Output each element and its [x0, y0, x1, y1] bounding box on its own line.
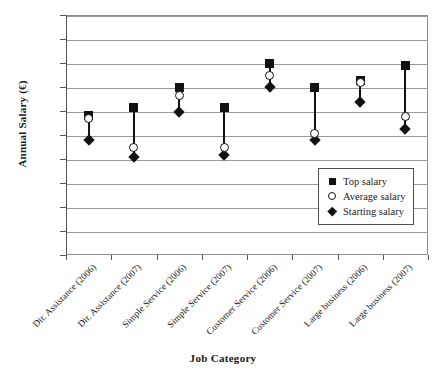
x-axis-tick-mark [383, 255, 384, 260]
average-salary-marker [84, 114, 93, 123]
legend-label: Average salary [343, 191, 405, 202]
top-salary-marker [129, 103, 138, 112]
y-axis-tick-mark [60, 15, 66, 16]
x-axis-tick-mark [247, 255, 248, 260]
average-salary-marker [175, 91, 184, 100]
average-salary-marker [356, 78, 365, 87]
legend-item-top-salary: Top salary [325, 174, 405, 188]
y-axis-tick-mark [60, 159, 66, 160]
gridline [67, 112, 427, 113]
average-salary-marker [265, 71, 274, 80]
y-axis-tick-mark [60, 207, 66, 208]
average-salary-marker [310, 129, 319, 138]
x-axis-category-label: Large business (2006) [284, 262, 369, 347]
top-salary-marker [265, 59, 274, 68]
gridline [67, 160, 427, 161]
top-salary-marker [310, 83, 319, 92]
filled-square-icon [325, 178, 339, 185]
gridline [67, 232, 427, 233]
x-axis-category-label: Customer Service (2007) [239, 262, 324, 347]
gridline [67, 88, 427, 89]
open-circle-icon [325, 192, 339, 200]
y-axis-tick-mark [60, 111, 66, 112]
salary-range-chart: Annual Salary (€) 05,00010,00015,00020,0… [0, 0, 446, 375]
x-axis-category-label: Simple Service (2006) [103, 262, 188, 347]
top-salary-marker [401, 61, 410, 70]
x-axis-title: Job Category [0, 352, 446, 364]
x-axis-tick-mark [111, 255, 112, 260]
x-axis-category-label: Customer Service (2006) [194, 262, 279, 347]
gridline [67, 136, 427, 137]
gridline [67, 16, 427, 17]
y-axis-tick-mark [60, 231, 66, 232]
y-axis-title: Annual Salary (€) [16, 44, 28, 204]
filled-diamond-icon [325, 208, 339, 215]
x-axis-tick-mark [157, 255, 158, 260]
y-axis-tick-mark [60, 183, 66, 184]
chart-legend: Top salary Average salary Starting salar… [318, 168, 414, 225]
gridline [67, 40, 427, 41]
x-axis-tick-mark [66, 255, 67, 260]
legend-item-average-salary: Average salary [325, 189, 405, 203]
x-axis-category-label: Dir. Assistance (2006) [13, 262, 98, 347]
x-axis-tick-mark [428, 255, 429, 260]
legend-item-starting-salary: Starting salary [325, 204, 405, 218]
x-axis-category-label: Dir. Assistance (2007) [58, 262, 143, 347]
gridline [67, 64, 427, 65]
y-axis-tick-mark [60, 63, 66, 64]
x-axis-tick-mark [202, 255, 203, 260]
y-axis-tick-mark [60, 87, 66, 88]
y-axis-tick-mark [60, 39, 66, 40]
legend-label: Top salary [343, 176, 387, 187]
x-axis-tick-mark [292, 255, 293, 260]
x-axis-tick-mark [338, 255, 339, 260]
x-axis-category-label: Large business (2007) [330, 262, 415, 347]
x-axis-category-label: Simple Service (2007) [149, 262, 234, 347]
average-salary-marker [129, 143, 138, 152]
legend-label: Starting salary [343, 206, 404, 217]
y-axis-tick-mark [60, 135, 66, 136]
top-salary-marker [220, 103, 229, 112]
